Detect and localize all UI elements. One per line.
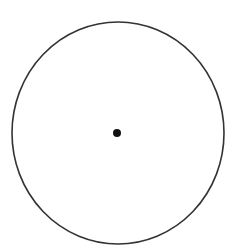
background xyxy=(0,0,244,249)
diagram-canvas xyxy=(0,0,244,249)
center-point xyxy=(113,129,121,137)
